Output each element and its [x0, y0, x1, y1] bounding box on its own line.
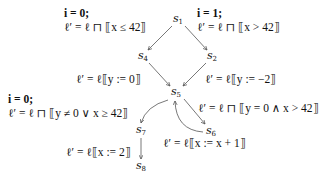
label-s1-s4: i = 0; ℓ′ = ℓ ⊓ ⟦x ≤ 42⟧ — [64, 6, 146, 34]
formula-s6-s5: ℓ′ = ℓ⟦x := x + 1⟧ — [163, 136, 246, 150]
edge-s4-s5 — [149, 63, 170, 86]
label-s6-s5: ℓ′ = ℓ⟦x := x + 1⟧ — [163, 136, 246, 150]
node-s5: s5 — [171, 86, 181, 101]
formula-s1-s2: ℓ′ = ℓ ⊓ ⟦x > 42⟧ — [197, 20, 280, 34]
guard-s1-s2: i = 1; — [197, 6, 280, 20]
guard-s1-s4: i = 0; — [64, 6, 146, 20]
node-s8: s8 — [136, 160, 146, 175]
label-s4-s5: ℓ′ = ℓ⟦y := 0⟧ — [76, 72, 141, 86]
guard-s5-s7: i = 0; — [8, 92, 128, 106]
node-s4: s4 — [138, 50, 148, 65]
formula-s7-s8: ℓ′ = ℓ⟦x := 2⟧ — [66, 145, 131, 159]
formula-s5-s6: ℓ′ = ℓ ⊓ ⟦y = 0 ∧ x > 42⟧ — [198, 101, 319, 115]
edge-s1-s4 — [148, 26, 172, 50]
formula-s5-s7: ℓ′ = ℓ ⊓ ⟦y ≠ 0 ∨ x ≥ 42⟧ — [8, 106, 128, 120]
label-s2-s5: ℓ′ = ℓ⟦y := −2⟧ — [205, 72, 276, 86]
label-s7-s8: ℓ′ = ℓ⟦x := 2⟧ — [66, 145, 131, 159]
formula-s1-s4: ℓ′ = ℓ ⊓ ⟦x ≤ 42⟧ — [64, 20, 146, 34]
edge-s5-s7 — [141, 100, 168, 123]
label-s5-s7: i = 0; ℓ′ = ℓ ⊓ ⟦y ≠ 0 ∨ x ≥ 42⟧ — [8, 92, 128, 120]
node-s1: s1 — [173, 13, 183, 28]
label-s1-s2: i = 1; ℓ′ = ℓ ⊓ ⟦x > 42⟧ — [197, 6, 280, 34]
node-s7: s7 — [136, 124, 146, 139]
edge-s2-s5 — [183, 63, 206, 86]
formula-s4-s5: ℓ′ = ℓ⟦y := 0⟧ — [76, 72, 141, 86]
label-s5-s6: ℓ′ = ℓ ⊓ ⟦y = 0 ∧ x > 42⟧ — [198, 101, 319, 115]
node-s2: s2 — [207, 50, 217, 65]
formula-s2-s5: ℓ′ = ℓ⟦y := −2⟧ — [205, 72, 276, 86]
